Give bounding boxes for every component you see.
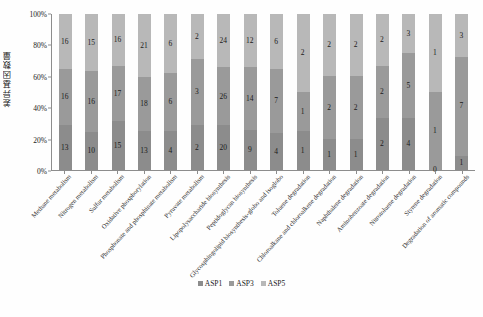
bar-segment-value: 16 (87, 98, 95, 106)
bar-group[interactable]: 674 (264, 14, 290, 170)
bar-stack[interactable]: 221 (323, 14, 336, 170)
bar-group[interactable]: 110 (422, 14, 448, 170)
bar-group[interactable]: 664 (158, 14, 184, 170)
bar-segment-value: 2 (301, 49, 305, 57)
bar-stack[interactable]: 232 (191, 14, 204, 170)
x-axis-tick-label: Nitrotoluene degradation (368, 173, 417, 227)
bar-segment-asp3[interactable]: 17 (112, 66, 125, 121)
bar-segment-asp3[interactable]: 6 (164, 73, 177, 132)
bar-segment-asp5[interactable]: 3 (402, 14, 415, 53)
bar-segment-asp3[interactable]: 5 (402, 53, 415, 118)
bar-segment-asp1[interactable]: 20 (217, 125, 230, 170)
bar-segment-asp1[interactable]: 13 (59, 125, 72, 170)
bar-group[interactable]: 151610 (78, 14, 104, 170)
bar-stack[interactable]: 161613 (59, 14, 72, 170)
bar-group[interactable]: 12149 (237, 14, 263, 170)
bar-segment-asp3[interactable]: 2 (350, 76, 363, 138)
bar-segment-asp3[interactable]: 2 (323, 76, 336, 138)
bar-group[interactable]: 211 (290, 14, 316, 170)
bar-group[interactable]: 371 (449, 14, 475, 170)
bar-segment-asp1[interactable]: 15 (112, 121, 125, 170)
bar-segment-asp3[interactable]: 14 (244, 67, 257, 129)
bar-segment-asp1[interactable]: 1 (323, 139, 336, 170)
bar-segment-asp5[interactable]: 2 (297, 14, 310, 92)
bar-segment-value: 7 (274, 97, 278, 105)
bar-group[interactable]: 161613 (52, 14, 78, 170)
bar-segment-asp3[interactable]: 1 (297, 92, 310, 131)
bar-segment-asp1[interactable]: 10 (85, 132, 98, 170)
legend-item-asp1[interactable]: ASP1 (198, 279, 223, 288)
bar-stack[interactable]: 371 (455, 14, 468, 170)
bar-segment-asp3[interactable]: 16 (85, 71, 98, 132)
bar-segment-asp3[interactable]: 2 (376, 66, 389, 118)
bar-segment-asp1[interactable]: 1 (350, 139, 363, 170)
bar-segment-asp3[interactable]: 3 (191, 59, 204, 126)
bar-segment-value: 16 (61, 93, 69, 101)
bar-stack[interactable]: 354 (402, 14, 415, 170)
bar-stack[interactable]: 242620 (217, 14, 230, 170)
bar-group[interactable]: 354 (396, 14, 422, 170)
bar-segment-asp3[interactable]: 7 (270, 69, 283, 133)
bar-segment-value: 3 (407, 30, 411, 38)
bar-segment-asp5[interactable]: 24 (217, 14, 230, 67)
bar-segment-value: 4 (169, 147, 173, 155)
bar-segment-asp1[interactable]: 2 (376, 118, 389, 170)
bar-segment-asp1[interactable]: 2 (191, 125, 204, 170)
bar-stack[interactable]: 211813 (138, 14, 151, 170)
bar-segment-value: 16 (61, 38, 69, 46)
bar-segment-value: 1 (433, 127, 437, 135)
bar-segment-value: 26 (220, 93, 228, 101)
bar-segment-asp1[interactable]: 13 (138, 131, 151, 170)
bar-segment-value: 2 (195, 33, 199, 41)
bar-segment-asp1[interactable]: 1 (297, 131, 310, 170)
bar-stack[interactable]: 221 (350, 14, 363, 170)
bar-segment-asp3[interactable]: 18 (138, 77, 151, 131)
bar-segment-asp1[interactable]: 1 (455, 156, 468, 170)
bar-segment-asp5[interactable]: 16 (59, 14, 72, 69)
bar-stack[interactable]: 12149 (244, 14, 257, 170)
bar-segment-value: 2 (354, 104, 358, 112)
bar-stack[interactable]: 161715 (112, 14, 125, 170)
bar-segment-asp3[interactable]: 7 (455, 57, 468, 156)
bar-stack[interactable]: 664 (164, 14, 177, 170)
bar-segment-asp1[interactable]: 9 (244, 130, 257, 170)
legend-item-asp5[interactable]: ASP5 (261, 279, 286, 288)
bar-segment-asp5[interactable]: 15 (85, 14, 98, 71)
x-axis-tick-label: Oxidative phosphorylation (100, 173, 152, 230)
legend-item-asp3[interactable]: ASP3 (229, 279, 254, 288)
bar-segment-asp3[interactable]: 16 (59, 69, 72, 124)
bar-group[interactable]: 221 (316, 14, 342, 170)
bar-segment-asp1[interactable]: 4 (402, 118, 415, 170)
bar-segment-asp5[interactable]: 1 (429, 14, 442, 92)
bar-segment-asp5[interactable]: 2 (350, 14, 363, 76)
bar-segment-asp5[interactable]: 2 (323, 14, 336, 76)
bar-segment-asp5[interactable]: 2 (191, 14, 204, 59)
bar-stack[interactable]: 211 (297, 14, 310, 170)
bar-segment-value: 24 (220, 37, 228, 45)
bar-segment-asp5[interactable]: 16 (112, 14, 125, 66)
bar-group[interactable]: 222 (369, 14, 395, 170)
bar-stack[interactable]: 151610 (85, 14, 98, 170)
bar-segment-asp3[interactable]: 1 (429, 92, 442, 170)
bar-segment-value: 2 (380, 36, 384, 44)
bar-segment-asp5[interactable]: 21 (138, 14, 151, 77)
bar-segment-value: 4 (274, 148, 278, 156)
bar-segment-value: 21 (140, 42, 148, 50)
bar-stack[interactable]: 674 (270, 14, 283, 170)
bar-group[interactable]: 232 (184, 14, 210, 170)
bar-group[interactable]: 211813 (131, 14, 157, 170)
y-axis-tick-60: 60% (33, 72, 47, 81)
bar-segment-asp5[interactable]: 3 (455, 14, 468, 57)
bar-segment-asp5[interactable]: 6 (270, 14, 283, 69)
bar-segment-asp5[interactable]: 2 (376, 14, 389, 66)
bar-segment-asp5[interactable]: 12 (244, 14, 257, 67)
bar-stack[interactable]: 222 (376, 14, 389, 170)
bar-segment-asp1[interactable]: 4 (270, 133, 283, 170)
bar-segment-asp3[interactable]: 26 (217, 67, 230, 125)
bar-segment-asp5[interactable]: 6 (164, 14, 177, 73)
bar-group[interactable]: 161715 (105, 14, 131, 170)
bar-segment-asp1[interactable]: 4 (164, 131, 177, 170)
bar-group[interactable]: 221 (343, 14, 369, 170)
bar-group[interactable]: 242620 (211, 14, 237, 170)
bar-stack[interactable]: 110 (429, 14, 442, 170)
